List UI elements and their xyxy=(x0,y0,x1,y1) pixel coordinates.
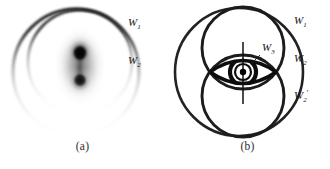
panel-b-label-W3-sub: 3 xyxy=(270,48,275,56)
svg-text:W3: W3 xyxy=(262,41,275,56)
svg-text:W1: W1 xyxy=(294,14,307,29)
panel-a-label-W1: W1 xyxy=(128,16,141,31)
panel-b-label-W3: W3 xyxy=(262,41,275,56)
figure-panel-a: W1 W2 (a) xyxy=(0,0,165,169)
panel-b-label-W2: W2 xyxy=(294,52,307,67)
panel-a-label-W2-sub: 2 xyxy=(137,61,141,69)
panel-b-W1-circle xyxy=(175,8,303,136)
panel-a-caption: (a) xyxy=(0,140,165,152)
panel-b-label-W2prime-mark: ′ xyxy=(307,89,309,98)
panel-b-label-W1-sub: 1 xyxy=(303,21,307,29)
svg-text:W1: W1 xyxy=(128,16,141,31)
panel-a-graphic: W1 W2 xyxy=(0,0,165,142)
panel-a-label-W1-sub: 1 xyxy=(137,23,141,31)
panel-a-label-W2: W2 xyxy=(128,54,141,69)
panel-b-label-W1: W1 xyxy=(294,14,307,29)
panel-b-caption: (b) xyxy=(165,140,330,152)
panel-b-graphic: W1 W2 W2′ W3 xyxy=(165,0,330,142)
svg-text:W2: W2 xyxy=(294,52,307,67)
svg-text:W2: W2 xyxy=(128,54,141,69)
panel-b-label-W2-sub: 2 xyxy=(303,59,307,67)
figure-panel-b: W1 W2 W2′ W3 (b) xyxy=(165,0,330,169)
panel-b-pupil xyxy=(240,69,246,75)
figure-root: W1 W2 (a) xyxy=(0,0,330,169)
